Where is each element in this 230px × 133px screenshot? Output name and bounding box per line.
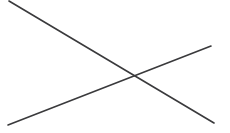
canvas-background [0,0,230,133]
x-mark-drawing [0,0,230,133]
drawing-canvas [0,0,230,133]
